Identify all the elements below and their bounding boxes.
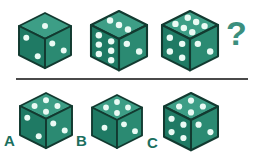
option-b-label[interactable]: B: [76, 133, 87, 148]
sequence-die-3: [159, 8, 221, 73]
sequence-die-1: [16, 10, 74, 71]
option-c-die[interactable]: [161, 90, 221, 153]
option-a-die[interactable]: [17, 90, 75, 151]
option-c-label[interactable]: C: [147, 135, 158, 150]
option-b-die[interactable]: [89, 92, 145, 151]
option-a-label[interactable]: A: [4, 133, 15, 148]
sequence-die-2: [88, 8, 150, 73]
dice-puzzle-canvas: ?ABC: [0, 0, 263, 156]
missing-term-question-mark: ?: [226, 16, 247, 50]
section-divider: [16, 78, 248, 80]
